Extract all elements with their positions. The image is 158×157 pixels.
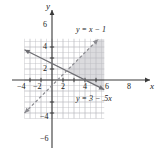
graph-figure: y x −4 −2 2 4 6 8 6 4 2 −4 −6 y = x − 1 … bbox=[0, 0, 158, 157]
x-axis-label: x bbox=[150, 82, 154, 91]
y-tick-label-4: 4 bbox=[43, 43, 47, 51]
y-tick-label-neg4: −4 bbox=[40, 113, 49, 121]
equation-label-solid-line: y = 3 − .5x bbox=[76, 95, 112, 103]
y-tick-label-neg6: −6 bbox=[40, 135, 49, 143]
coordinate-plane bbox=[0, 0, 158, 157]
x-tick-label-4: 4 bbox=[83, 83, 87, 91]
x-tick-label-6: 6 bbox=[105, 83, 109, 91]
y-tick-label-2: 2 bbox=[43, 65, 47, 73]
x-tick-label-neg2: −2 bbox=[33, 83, 42, 91]
x-tick-label-8: 8 bbox=[127, 83, 131, 91]
y-axis bbox=[50, 10, 55, 148]
x-tick-label-2: 2 bbox=[61, 83, 65, 91]
equation-label-dashed-line: y = x − 1 bbox=[76, 26, 106, 34]
y-tick-label-6: 6 bbox=[43, 21, 47, 29]
y-axis-label: y bbox=[46, 2, 50, 11]
x-tick-label-neg4: −4 bbox=[17, 83, 26, 91]
